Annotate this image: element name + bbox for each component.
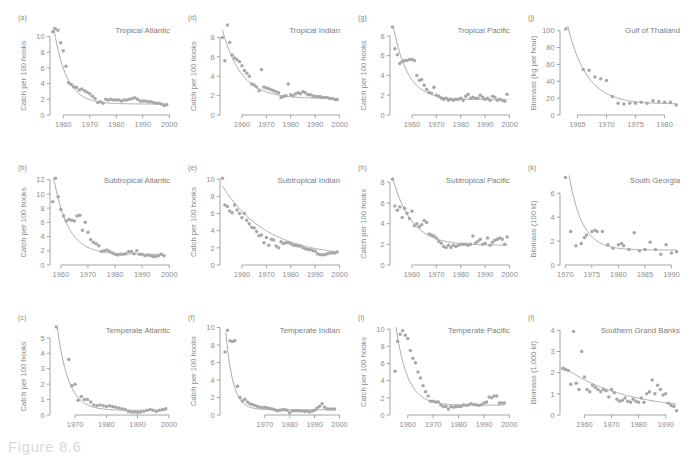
data-point [139, 410, 143, 414]
y-axis-title: Catch per 100 hooks [189, 336, 198, 406]
panel-title: Tropical Indian [289, 26, 340, 35]
data-point [75, 86, 79, 90]
y-tick-label: 0 [550, 261, 554, 270]
y-axis-title: Catch per 100 hooks [359, 40, 368, 110]
fitted-decay-curve [54, 178, 164, 255]
y-tick-label: 3 [40, 364, 44, 373]
data-point [98, 403, 102, 407]
chart-panel-i: (i)Temperate Pacific02468101960197019801… [340, 300, 522, 450]
data-point [415, 74, 419, 78]
data-point [393, 47, 397, 51]
y-tick-label: 6 [380, 199, 384, 208]
data-point [650, 378, 654, 382]
fitted-decay-curve [392, 177, 507, 245]
data-point [664, 243, 668, 247]
y-tick-label: 0 [210, 411, 214, 420]
y-tick-label: 3 [550, 347, 554, 356]
data-point [230, 211, 234, 215]
data-point [670, 251, 674, 255]
x-tick-label: 1980 [283, 120, 299, 129]
x-tick-label: 1960 [234, 270, 250, 279]
y-tick-label: 2 [380, 91, 384, 100]
data-point [604, 389, 608, 393]
x-tick-label: 1960 [404, 270, 420, 279]
data-point [151, 409, 155, 413]
data-point [569, 230, 573, 234]
y-tick-label: 2 [40, 95, 44, 104]
data-point [654, 248, 658, 252]
panel-title: Subtropical Indian [278, 176, 340, 185]
y-axis-title: Catch per 100 hooks [359, 337, 368, 407]
y-axis-title: Catch per 100 hooks [19, 341, 28, 411]
x-tick-label: 1970 [82, 120, 98, 129]
panel-letter: (i) [358, 313, 364, 322]
data-point [233, 203, 237, 207]
data-point [277, 91, 281, 95]
data-point [409, 349, 413, 353]
y-tick-label: 0 [40, 261, 44, 270]
x-tick-label: 1975 [627, 120, 643, 129]
x-tick-label: 1990 [129, 420, 145, 429]
data-point [267, 244, 271, 248]
data-point [404, 333, 408, 337]
data-point [638, 249, 642, 253]
data-point [240, 216, 244, 220]
data-point [135, 249, 139, 253]
data-point [505, 235, 509, 239]
data-point [81, 228, 85, 232]
data-point [471, 234, 475, 238]
data-point [601, 230, 605, 234]
data-point [89, 238, 93, 242]
data-point [401, 329, 405, 333]
data-point [595, 230, 599, 234]
panel-letter: (l) [528, 313, 534, 322]
x-tick-label: 1970 [80, 270, 96, 279]
x-tick-label: 1970 [257, 420, 273, 429]
chart-panel-e: (e)Subtropical Indian0246810196019701980… [170, 150, 352, 300]
data-point [605, 79, 609, 83]
data-point [648, 241, 652, 245]
data-point [628, 101, 632, 105]
y-tick-label: 0 [380, 111, 384, 120]
data-point [585, 233, 589, 237]
data-point [145, 409, 149, 413]
data-point [421, 384, 425, 388]
x-tick-label: 1970 [557, 270, 573, 279]
data-point [93, 97, 97, 101]
panel-letter: (d) [188, 13, 197, 22]
panel-letter: (a) [18, 13, 27, 22]
data-point [675, 250, 679, 254]
data-point [162, 254, 166, 258]
data-point [230, 53, 234, 57]
data-point [130, 410, 134, 414]
panel-title: Temperate Indian [280, 326, 340, 335]
data-point [55, 325, 59, 329]
x-tick-label: 1980 [656, 120, 672, 129]
data-point [656, 384, 660, 388]
y-tick-label: 2 [380, 240, 384, 249]
y-tick-label: 8 [380, 32, 384, 41]
data-point [488, 98, 492, 102]
data-point [59, 208, 63, 212]
panel-title: Subtropical Pacific [446, 176, 510, 185]
data-point [165, 103, 169, 107]
data-point [67, 358, 71, 362]
data-point [629, 401, 633, 405]
x-tick-label: 1990 [477, 120, 493, 129]
data-point [488, 244, 492, 248]
data-point [583, 375, 587, 379]
data-point [59, 41, 63, 45]
data-point [248, 75, 252, 79]
chart-panel-b: (b)Subtropical Atlantic02468101219601970… [0, 150, 182, 300]
data-point [406, 337, 410, 341]
data-point [56, 195, 60, 199]
y-tick-label: 100 [542, 26, 554, 35]
y-tick-label: 5 [40, 334, 44, 343]
chart-panel-g: (g)Tropical Pacific024681960197019801990… [340, 0, 522, 150]
data-point [391, 177, 395, 181]
data-point [444, 405, 448, 409]
data-point [133, 410, 137, 414]
data-point [500, 237, 504, 241]
data-point [245, 219, 249, 223]
y-axis-title: Catch per 100 hooks [19, 41, 28, 111]
